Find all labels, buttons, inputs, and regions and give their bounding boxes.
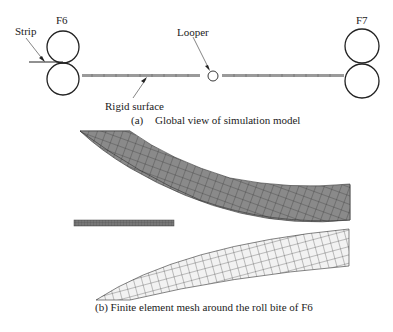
f6-label: F6 bbox=[56, 14, 68, 26]
strip-mesh bbox=[74, 220, 174, 226]
strip-arrowhead bbox=[39, 56, 45, 62]
looper-roll bbox=[208, 71, 218, 81]
looper-label: Looper bbox=[177, 26, 209, 38]
looper-arrow bbox=[193, 37, 209, 69]
rigid-surface-label: Rigid surface bbox=[105, 100, 164, 112]
rigid-surface-left bbox=[82, 74, 200, 77]
rigid-surface-right bbox=[222, 74, 344, 77]
rigid-surface-arrowhead bbox=[141, 77, 147, 83]
f6-upper-roll bbox=[47, 31, 79, 63]
f7-lower-roll bbox=[345, 64, 379, 98]
looper-arrowhead bbox=[205, 65, 210, 71]
caption-b: (b) Finite element mesh around the roll … bbox=[95, 301, 313, 313]
caption-a-tag: (a) bbox=[131, 114, 143, 126]
f6-lower-roll bbox=[47, 63, 79, 95]
strip-label: Strip bbox=[15, 25, 36, 37]
f7-upper-roll bbox=[345, 29, 379, 63]
f7-label: F7 bbox=[356, 14, 368, 26]
caption-a-text: Global view of simulation model bbox=[155, 114, 300, 126]
upper-roll-mesh-body bbox=[80, 131, 350, 221]
lower-roll-mesh bbox=[96, 229, 349, 300]
global-view-diagram bbox=[0, 0, 393, 332]
